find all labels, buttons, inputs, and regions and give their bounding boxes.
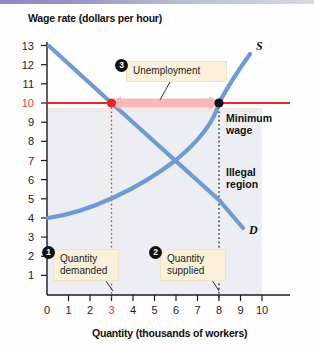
callout-unemployment-leader [160,82,170,100]
y-tick-label-4: 4 [28,212,34,224]
x-tick-label-4: 4 [130,304,136,316]
x-tick-label-2: 2 [87,304,93,316]
y-tick-label-3: 3 [28,231,34,243]
y-tick-label-13: 13 [22,40,34,52]
illegal-region-line2: region [226,178,258,190]
callout-unemployment-text: Unemployment [133,65,200,76]
x-tick-label-8: 8 [216,304,222,316]
supply-curve-label: S [256,39,263,53]
callout-quantity-demanded-line1: Quantity [60,253,97,264]
x-tick-label-6: 6 [173,304,179,316]
x-tick-label-5: 5 [151,304,157,316]
demand-curve-label: D [248,223,258,237]
quantity-supplied-point [214,98,223,107]
callout-quantity-supplied: Quantity supplied [160,249,226,281]
callout-quantity-demanded-badge: 1 [42,246,55,259]
x-tick-label-9: 9 [237,304,243,316]
callout-unemployment: Unemployment [126,61,227,82]
y-tick-label-1: 1 [28,269,34,281]
callout-quantity-supplied-line2: supplied [167,265,204,276]
y-tick-label-5: 5 [28,193,34,205]
x-tick-label-1: 1 [65,304,71,316]
x-tick-marks [69,295,263,301]
y-tick-label-7: 7 [28,155,34,167]
x-tick-label-7: 7 [194,304,200,316]
x-tick-label-10: 10 [256,304,268,316]
x-tick-label-0: 0 [44,304,50,316]
illegal-region-annotation: Illegal region [226,166,258,190]
unemployment-arrow [108,97,222,110]
chart-svg: 13 12 11 10 9 8 7 6 5 4 3 2 1 0 1 2 3 4 [0,0,314,347]
y-tick-marks [41,46,47,276]
y-tick-label-2: 2 [28,250,34,262]
x-tick-label-3: 3 [108,304,114,316]
callout-quantity-demanded-line2: demanded [60,265,107,276]
illegal-region-line1: Illegal [226,166,256,178]
callout-unemployment-badge: 3 [115,59,128,72]
minimum-wage-line1: Minimum [226,112,272,124]
callout-quantity-demanded: Quantity demanded [53,249,119,281]
minimum-wage-line2: wage [226,124,252,136]
callout-quantity-supplied-badge: 2 [149,246,162,259]
y-tick-label-9: 9 [28,116,34,128]
y-tick-label-11: 11 [23,78,34,90]
y-tick-label-12: 12 [22,59,34,71]
figure-root: Wage rate (dollars per hour) Quantity (t… [0,0,314,347]
y-tick-label-8: 8 [28,135,34,147]
minimum-wage-annotation: Minimum wage [226,112,272,136]
y-tick-label-6: 6 [28,174,34,186]
callout-quantity-supplied-line1: Quantity [167,253,204,264]
y-tick-label-10: 10 [22,97,34,109]
quantity-demanded-point [107,98,116,107]
